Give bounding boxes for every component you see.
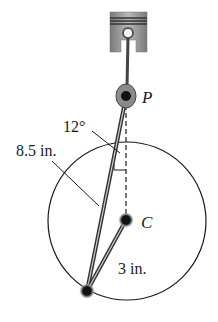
joint-crank-pin (79, 283, 95, 299)
right-angle-marker (114, 164, 126, 170)
piston (110, 12, 147, 88)
joint-c (118, 212, 134, 228)
label-c: C (141, 213, 153, 232)
label-p: P (141, 88, 152, 107)
label-crank-length: 3 in. (118, 260, 146, 277)
piston-crank-diagram: P C 12° 8.5 in. 3 in. (0, 0, 218, 322)
label-rod-length: 8.5 in. (16, 142, 56, 159)
joint-p (116, 84, 136, 108)
rod-length-leader-line (52, 161, 99, 206)
label-angle: 12° (63, 118, 85, 135)
